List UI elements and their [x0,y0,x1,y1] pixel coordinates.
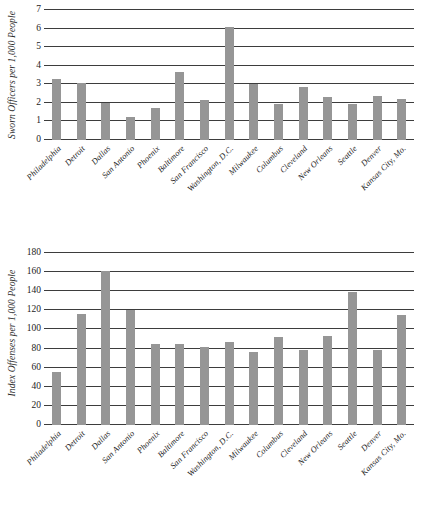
x-label-slot: Dallas [93,427,118,517]
bar [126,310,135,425]
bar [175,344,184,425]
bar [323,97,332,140]
bar [77,83,86,140]
bar-slot [340,10,365,140]
bar [348,292,357,425]
y-axis-tick-label: 4 [36,60,41,70]
bar-slot [167,10,192,140]
x-label-slot: Detroit [69,142,94,230]
bar [348,104,357,140]
bar-slot [44,10,69,140]
y-axis-tick-label: 40 [32,381,42,391]
chart-sworn-officers: Sworn Officers per 1,000 People 01234567… [0,0,426,232]
x-label-slot: New Orleans [315,142,340,230]
bar-slot [93,253,118,425]
x-label-slot: Milwaukee [241,142,266,230]
chart1-x-axis-labels: PhiladelphiaDetroitDallasSan AntonioPhoe… [44,142,414,230]
y-axis-tick-label: 2 [36,97,41,107]
bar-slot [241,10,266,140]
x-label-slot: Washington, D.C. [217,142,242,230]
bar-slot [44,253,69,425]
bar [299,87,308,140]
x-label-slot: Cleveland [291,142,316,230]
bar [52,372,61,425]
bar-slot [69,10,94,140]
y-axis-tick-label: 7 [36,4,41,14]
y-axis-tick-label: 80 [32,343,42,353]
bar-slot [118,253,143,425]
bar-slot [167,253,192,425]
x-axis-tick-label: Philadelphia [25,144,63,182]
x-label-slot: Dallas [93,142,118,230]
x-label-slot: Phoenix [143,427,168,517]
bar-slot [143,10,168,140]
bar [200,347,209,425]
bar-slot [315,10,340,140]
x-label-slot: Washington, D.C. [217,427,242,517]
bar-slot [389,10,414,140]
chart2-x-axis-labels: PhiladelphiaDetroitDallasSan AntonioPhoe… [44,427,414,517]
y-axis-tick-label: 180 [27,247,41,257]
bar [225,342,234,425]
bar [101,271,110,425]
x-label-slot: Columbus [266,142,291,230]
bar [299,350,308,425]
bar-slot [118,10,143,140]
bar [101,103,110,140]
bar [397,315,406,425]
bar [397,99,406,140]
y-axis-tick-label: 20 [32,400,42,410]
chart1-y-axis-title: Sworn Officers per 1,000 People [0,0,24,150]
x-label-slot: Kansas City, Mo. [389,142,414,230]
y-axis-tick-label: 160 [27,266,41,276]
bar [249,352,258,425]
bar [175,72,184,140]
x-label-slot: Kansas City, Mo. [389,427,414,517]
bar [200,100,209,140]
x-label-slot: Detroit [69,427,94,517]
y-axis-tick-label: 3 [36,78,41,88]
y-axis-tick-label: 100 [27,323,41,333]
bar [151,344,160,425]
bar-slot [217,253,242,425]
x-label-slot: Cleveland [291,427,316,517]
bar-slot [266,253,291,425]
bar-slot [241,253,266,425]
x-label-slot: Milwaukee [241,427,266,517]
x-axis-tick-label: Dallas [89,429,112,452]
y-axis-tick-label: 0 [36,419,41,429]
x-label-slot: Philadelphia [44,142,69,230]
bar [373,350,382,425]
bar-slot [389,253,414,425]
bar [323,336,332,425]
bar [274,104,283,140]
bar [151,108,160,141]
bar [52,79,61,140]
x-axis-tick-label: Dallas [89,144,112,167]
y-axis-tick-label: 6 [36,23,41,33]
chart2-bars [44,253,414,425]
bar-slot [217,10,242,140]
x-label-slot: New Orleans [315,427,340,517]
bar-slot [93,10,118,140]
y-axis-tick-label: 1 [36,115,41,125]
bar-slot [192,10,217,140]
y-axis-tick-label: 120 [27,304,41,314]
x-label-slot: Phoenix [143,142,168,230]
chart-index-offenses: Index Offenses per 1,000 People 02040608… [0,240,426,517]
bar-slot [266,10,291,140]
x-label-slot: San Antonio [118,142,143,230]
y-axis-tick-label: 140 [27,285,41,295]
figure-two-bar-charts: Sworn Officers per 1,000 People 01234567… [0,0,426,517]
y-axis-tick-label: 60 [32,362,42,372]
bar-slot [291,253,316,425]
y-axis-tick-label: 0 [36,134,41,144]
bar-slot [340,253,365,425]
x-axis-tick-label: Seattle [336,429,359,452]
x-label-slot: Columbus [266,427,291,517]
bar [126,117,135,140]
bar [249,84,258,140]
chart1-bars [44,10,414,140]
bar [77,314,86,425]
bar-slot [315,253,340,425]
